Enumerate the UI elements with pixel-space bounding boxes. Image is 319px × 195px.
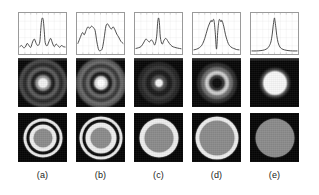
ring bbox=[213, 79, 221, 87]
panel-caption-a: (a) bbox=[18, 170, 67, 180]
ring bbox=[34, 129, 52, 147]
image-top-band bbox=[250, 58, 299, 61]
profile-plot-e bbox=[250, 12, 299, 55]
profile-plot-b bbox=[76, 12, 125, 55]
panel-column-c: (c) bbox=[134, 0, 185, 195]
ring bbox=[264, 72, 286, 94]
panel-caption-b: (b) bbox=[76, 170, 125, 180]
image-top-band bbox=[134, 58, 183, 61]
profile-plot-c bbox=[134, 12, 183, 55]
image-top-band bbox=[192, 58, 241, 61]
profile-plot-a bbox=[18, 12, 67, 55]
diffraction-pattern-c bbox=[134, 58, 183, 107]
ring bbox=[256, 119, 294, 157]
aperture-mask-b bbox=[76, 113, 125, 162]
ring bbox=[39, 79, 47, 87]
ring bbox=[156, 80, 162, 86]
diffraction-pattern-b bbox=[76, 58, 125, 107]
aperture-mask-c bbox=[134, 113, 183, 162]
figure-panel-grid: (a)(b)(c)(d)(e) bbox=[0, 0, 319, 195]
profile-plot-d bbox=[192, 12, 241, 55]
panel-column-a: (a) bbox=[18, 0, 69, 195]
ring bbox=[145, 124, 173, 152]
panel-column-d: (d) bbox=[192, 0, 243, 195]
aperture-mask-d bbox=[192, 113, 241, 162]
panel-caption-c: (c) bbox=[134, 170, 183, 180]
ring bbox=[91, 128, 111, 148]
panel-caption-d: (d) bbox=[192, 170, 241, 180]
panel-column-e: (e) bbox=[250, 0, 301, 195]
panel-column-b: (b) bbox=[76, 0, 127, 195]
diffraction-pattern-a bbox=[18, 58, 67, 107]
aperture-mask-e bbox=[250, 113, 299, 162]
ring bbox=[200, 121, 234, 155]
ring bbox=[98, 80, 104, 86]
diffraction-pattern-e bbox=[250, 58, 299, 107]
panel-caption-e: (e) bbox=[250, 170, 299, 180]
diffraction-pattern-d bbox=[192, 58, 241, 107]
aperture-mask-a bbox=[18, 113, 67, 162]
